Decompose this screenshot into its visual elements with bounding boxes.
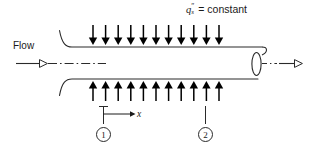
heat-flux-arrow-up-head (177, 81, 185, 89)
heat-flux-arrow-down-head (202, 38, 210, 46)
heat-flux-arrow-up-head (190, 81, 198, 89)
heat-flux-arrow-down-head (164, 38, 172, 46)
heat-flux-arrow-down-head (215, 38, 223, 46)
heat-flux-arrow-up-head (127, 81, 135, 89)
heat-flux-equals: = constant (198, 3, 247, 15)
heat-flux-subscript: s (191, 9, 194, 16)
flow-label: Flow (13, 41, 34, 51)
heat-flux-arrow-up-head (202, 81, 210, 89)
station-leaders (99, 106, 206, 124)
heat-flux-arrow-down-head (127, 38, 135, 46)
heat-flux-label: q″s= constant (186, 4, 247, 16)
heat-flux-arrow-down-head (139, 38, 147, 46)
tube-outlet-ellipse (252, 53, 261, 76)
station-2-marker: 2 (198, 127, 213, 142)
heat-flux-arrow-down-head (152, 38, 160, 46)
heat-flux-arrow-down-head (101, 38, 109, 46)
tube-outlet-top-curve (262, 47, 267, 55)
heat-flux-arrow-up-head (89, 81, 97, 89)
heat-flux-symbol: q″s (186, 4, 191, 15)
heat-flux-arrows-bottom (89, 81, 223, 101)
heat-flux-arrow-up-head (215, 81, 223, 89)
heat-flux-arrow-up-head (152, 81, 160, 89)
heat-flux-arrows-top (89, 25, 223, 45)
heat-flux-arrow-down-head (190, 38, 198, 46)
station-1-marker: 1 (96, 127, 111, 142)
figure-tube-constant-heat-flux: Flow q″s= constant x 1 2 (0, 0, 310, 147)
heat-flux-arrow-down-head (114, 38, 122, 46)
heat-flux-arrow-up-head (101, 81, 109, 89)
heat-flux-arrow-up-head (139, 81, 147, 89)
heat-flux-arrow-up-head (164, 81, 172, 89)
diagram-canvas (0, 0, 310, 147)
heat-flux-arrow-down-head (177, 38, 185, 46)
x-axis-label: x (137, 110, 141, 120)
heat-flux-arrow-up-head (114, 81, 122, 89)
heat-flux-arrow-down-head (89, 38, 97, 46)
